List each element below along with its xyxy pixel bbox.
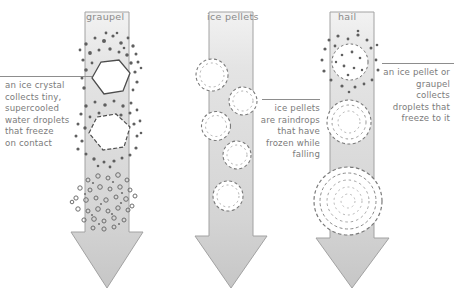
arrow-graupel bbox=[71, 12, 143, 288]
column-title-ice-pellets: ice pellets bbox=[207, 11, 259, 22]
ice-pellet-5 bbox=[213, 181, 243, 211]
annotation-hail: an ice pellet or graupel collects drople… bbox=[380, 67, 450, 125]
ice-pellet-2 bbox=[229, 87, 257, 115]
annotation-graupel: an ice crystal collects tiny, supercoole… bbox=[5, 80, 93, 150]
hail-stage-3 bbox=[314, 167, 382, 235]
ice-pellet-4 bbox=[223, 141, 251, 169]
hail-stage-2 bbox=[327, 100, 371, 144]
ice-pellet-3 bbox=[202, 112, 231, 141]
hail-embryo bbox=[332, 44, 368, 80]
column-title-graupel: graupel bbox=[86, 11, 124, 22]
annotation-ice-pellets: ice pellets are raindrops that have froz… bbox=[258, 103, 320, 161]
hydrometeor-formation-diagram: graupel ice pellets hail an ice crystal … bbox=[0, 0, 454, 299]
ice-pellet-1 bbox=[196, 59, 228, 91]
column-title-hail: hail bbox=[338, 11, 356, 22]
